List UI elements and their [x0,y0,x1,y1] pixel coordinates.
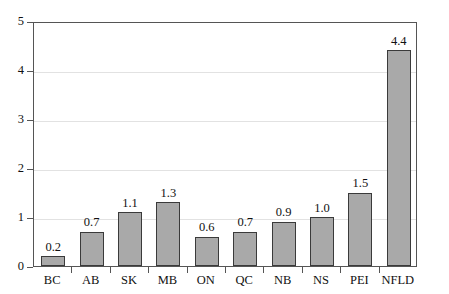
bar-slot: 1.1 [118,23,142,266]
y-axis-tick-label: 2 [2,162,24,175]
bar[interactable] [118,212,142,266]
bar-chart: 012345 0.20.71.11.30.60.70.91.01.54.4 BC… [0,0,449,294]
x-axis-tick [302,267,303,273]
x-axis-tick [148,267,149,273]
bar-value-label: 1.0 [299,202,345,215]
bar-slot: 1.0 [310,23,334,266]
bar-value-label: 1.3 [145,187,191,200]
bar-slot: 4.4 [387,23,411,266]
y-axis-tick-label: 4 [2,64,24,77]
bar-value-label: 0.7 [69,216,115,229]
bar[interactable] [195,237,219,266]
x-axis-tick [110,267,111,273]
y-axis-tick-label: 0 [2,260,24,273]
bar-slot: 0.7 [233,23,257,266]
x-axis-tick [187,267,188,273]
bar-slot: 0.7 [80,23,104,266]
bar-value-label: 4.4 [376,35,422,48]
x-axis-tick [263,267,264,273]
bar-slot: 0.2 [41,23,65,266]
x-axis-tick [71,267,72,273]
x-axis-tick [340,267,341,273]
x-axis-tick [379,267,380,273]
bar[interactable] [233,232,257,266]
bar-value-label: 0.2 [30,241,76,254]
bar[interactable] [387,50,411,266]
bar[interactable] [348,193,372,267]
x-axis-tick [225,267,226,273]
bar[interactable] [156,202,180,266]
y-axis-tick-label: 5 [2,15,24,28]
bar-slot: 1.5 [348,23,372,266]
bar-slot: 0.6 [195,23,219,266]
bar[interactable] [310,217,334,266]
bar[interactable] [80,232,104,266]
x-axis-category-label: NFLD [368,274,428,288]
y-axis-tick-label: 3 [2,113,24,126]
bar-value-label: 1.5 [337,177,383,190]
y-axis-tick-label: 1 [2,211,24,224]
bar-slot: 0.9 [272,23,296,266]
y-axis-tick [27,267,33,268]
bar[interactable] [41,256,65,266]
bar-slot: 1.3 [156,23,180,266]
plot-area: 0.20.71.11.30.60.70.91.01.54.4 [33,22,417,267]
bar[interactable] [272,222,296,266]
